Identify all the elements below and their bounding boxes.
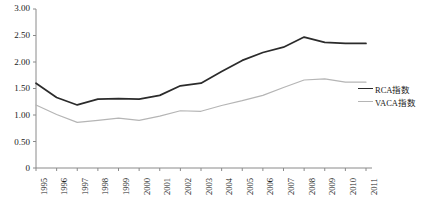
chart-legend: RCA指数 VACA指数: [358, 82, 416, 108]
x-axis-tick-label: 2011: [370, 178, 379, 195]
x-axis-tick-label: 1997: [81, 178, 90, 195]
legend-label-vaca: VACA指数: [375, 96, 416, 108]
legend-swatch-rca: [358, 88, 373, 89]
legend-label-rca: RCA指数: [375, 83, 410, 95]
series-lines: [36, 37, 366, 122]
x-axis-tick-label: 1999: [122, 178, 131, 195]
x-axis-tick-label: 2007: [287, 178, 296, 195]
x-axis-tick-label: 2006: [266, 178, 275, 195]
x-axis-tick-label: 2010: [349, 178, 358, 195]
x-axis-tick-label: 2008: [308, 178, 317, 195]
legend-item-vaca: VACA指数: [358, 95, 416, 108]
x-axis-tick-label: 1996: [60, 178, 69, 195]
legend-item-rca: RCA指数: [358, 82, 416, 95]
chart-container: 3.00 2.50 2.00 1.50 1.00 0.50 0 19951996…: [0, 0, 433, 223]
x-axis-tick-label: 1998: [101, 178, 110, 195]
x-axis-tick-label: 2004: [225, 178, 234, 195]
x-axis-tick-label: 1995: [40, 178, 49, 195]
x-axis-tick-label: 2003: [205, 178, 214, 195]
series-line: [36, 37, 366, 105]
x-axis-tick-label: 2001: [163, 178, 172, 195]
x-axis-tick-label: 2002: [184, 178, 193, 195]
x-axis-tick-label: 2009: [328, 178, 337, 195]
legend-swatch-vaca: [358, 101, 373, 102]
series-line: [36, 79, 366, 122]
x-axis-tick-label: 2005: [246, 178, 255, 195]
axes: [36, 9, 372, 168]
x-axis-tick-label: 2000: [143, 178, 152, 195]
